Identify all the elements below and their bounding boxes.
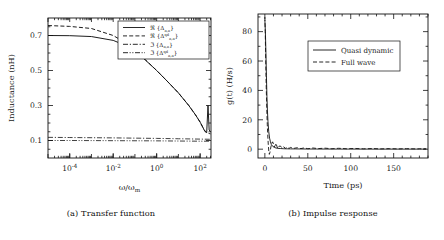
figure-container: 10-410-21001020.10.30.50.7Inductance (nH… — [0, 0, 444, 240]
x-tick-label: 102 — [194, 163, 208, 173]
x-tick-exponent: 2 — [203, 163, 207, 169]
x-tick-label: 0 — [262, 164, 267, 173]
y-tick-label: 0 — [247, 145, 252, 154]
caption-transfer-function: (a) Transfer function — [0, 208, 222, 218]
series-path-0 — [265, 20, 426, 149]
panel-transfer-function: 10-410-21001020.10.30.50.7Inductance (nH… — [0, 0, 222, 240]
x-tick-label: 100 — [343, 164, 358, 173]
x-tick-exponent: 0 — [160, 163, 164, 169]
x-axis-title: ω/ωm — [119, 182, 141, 193]
x-tick-label: 100 — [150, 163, 164, 173]
transfer-function-chart: 10-410-21001020.10.30.50.7Inductance (nH… — [0, 0, 222, 205]
caption-impulse-response: (b) Impulse response — [222, 208, 444, 218]
y-tick-label: 0.1 — [30, 136, 42, 145]
plot-transfer-function: 10-410-21001020.10.30.50.7Inductance (nH… — [0, 0, 222, 205]
panel-impulse-response: 050100150020406080g(t) (H/s)Time (ps)Qua… — [222, 0, 444, 240]
series-path-3 — [48, 141, 211, 142]
x-tick-label: 10-2 — [106, 163, 122, 173]
y-axis-title: g(t) (H/s) — [224, 67, 234, 105]
legend-label-0: Quasi dynamic — [341, 47, 393, 55]
plot-impulse-response: 050100150020406080g(t) (H/s)Time (ps)Qua… — [222, 0, 444, 205]
legend-brace: } — [174, 50, 178, 56]
y-tick-label: 80 — [242, 27, 252, 36]
series-path-2 — [48, 137, 211, 139]
y-tick-label: 40 — [242, 86, 252, 95]
y-tick-label: 0.3 — [30, 101, 42, 110]
x-tick-exponent: -4 — [72, 163, 78, 169]
impulse-response-chart: 050100150020406080g(t) (H/s)Time (ps)Qua… — [222, 0, 444, 205]
x-axis-title: Time (ps) — [323, 180, 362, 190]
x-tick-label: 50 — [303, 164, 313, 173]
y-axis-title: Inductance (nH) — [6, 54, 16, 122]
legend-brace: } — [169, 42, 173, 48]
legend-label-1: Full wave — [341, 59, 375, 67]
y-tick-label: 0.7 — [30, 31, 42, 40]
series-path-1 — [265, 17, 426, 154]
legend-brace: } — [170, 25, 174, 31]
x-tick-exponent: -2 — [115, 163, 121, 169]
y-tick-label: 60 — [242, 57, 252, 66]
x-tick-label: 10-4 — [62, 163, 78, 173]
x-axis-title-subscript: m — [135, 187, 141, 193]
y-tick-label: 0.5 — [30, 66, 42, 75]
y-tick-label: 20 — [242, 116, 252, 125]
plot-frame — [258, 14, 428, 158]
x-tick-label: 150 — [386, 164, 401, 173]
legend-brace: } — [175, 33, 179, 39]
